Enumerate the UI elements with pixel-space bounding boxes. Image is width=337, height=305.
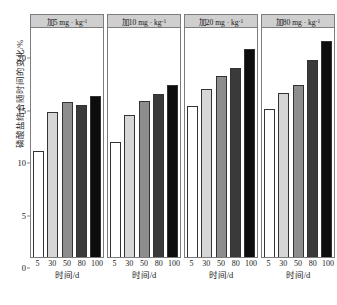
bar [201,89,212,257]
bar [90,96,101,257]
x-axis-tick-label: 80 [307,258,318,269]
x-axis-tick-label: 80 [76,258,87,269]
x-axis-tick-label: 100 [91,258,102,269]
bar [76,105,87,257]
x-axis-tick-label: 30 [201,258,212,269]
bar [230,68,241,257]
panel-row: 加5 mg · kg-1加10 mg · kg-1加20 mg · kg-1加8… [30,14,335,258]
bar [124,115,135,257]
panel-plot-area [184,27,258,258]
y-axis-tick-label: 5 [22,211,26,220]
figure-caption [0,296,337,305]
x-axis-tick-label: 100 [322,258,333,269]
bar [293,85,304,257]
x-axis-row: 5305080100时间/d5305080100时间/d5305080100时间… [30,258,335,288]
x-axis-tick-label: 50 [293,258,304,269]
chart-panel: 加5 mg · kg-1 [30,14,104,258]
x-axis-tick-label: 80 [230,258,241,269]
bar [244,49,255,257]
y-axis: 05101520 [0,24,30,258]
panel-plot-area [107,27,181,258]
y-axis-tick-label: 0 [22,264,26,273]
x-axis-tick-label: 30 [124,258,135,269]
chart-panel: 加80 mg · kg-1 [261,14,335,258]
bar [33,151,44,257]
bar [153,94,164,257]
chart-figure: 磷酸盐结合随时间的变化/% 05101520 加5 mg · kg-1加10 m… [0,0,337,305]
x-axis: 5305080100时间/d [107,258,181,288]
x-axis: 5305080100时间/d [30,258,104,288]
bar-group [110,28,178,257]
panel-header: 加10 mg · kg-1 [107,14,181,27]
bar [216,76,227,257]
bar [167,85,178,257]
x-axis-tick-label: 50 [62,258,73,269]
x-axis-tick-label: 30 [278,258,289,269]
panel-header: 加5 mg · kg-1 [30,14,104,27]
panel-plot-area [261,27,335,258]
bar-group [33,28,101,257]
chart-panel: 加20 mg · kg-1 [184,14,258,258]
x-axis-title: 时间/d [30,269,104,281]
x-axis-title: 时间/d [184,269,258,281]
bar [139,101,150,257]
bar [278,93,289,257]
x-axis-tick-label: 5 [32,258,43,269]
x-axis-tick-label: 80 [153,258,164,269]
x-axis-ticks: 5305080100 [107,258,181,269]
bar [62,102,73,257]
bar-group [187,28,255,257]
x-axis-title: 时间/d [107,269,181,281]
y-axis-tick-label: 20 [18,54,27,63]
x-axis-tick-label: 30 [47,258,58,269]
x-axis-tick-label: 50 [216,258,227,269]
y-axis-tick-label: 10 [18,159,27,168]
bar-group [264,28,332,257]
x-axis-tick-label: 5 [109,258,120,269]
y-axis-tick-label: 15 [18,106,27,115]
bar [187,106,198,257]
panel-header-label: 加80 mg · kg [276,16,316,27]
panel-header-label: 加20 mg · kg [199,16,239,27]
x-axis-tick-label: 100 [245,258,256,269]
x-axis-ticks: 5305080100 [30,258,104,269]
x-axis-tick-label: 100 [168,258,179,269]
bar [47,112,58,257]
panel-header: 加20 mg · kg-1 [184,14,258,27]
x-axis-ticks: 5305080100 [261,258,335,269]
x-axis-title: 时间/d [261,269,335,281]
x-axis-ticks: 5305080100 [184,258,258,269]
x-axis-tick-label: 5 [186,258,197,269]
x-axis: 5305080100时间/d [261,258,335,288]
panel-header: 加80 mg · kg-1 [261,14,335,27]
bar [110,142,121,258]
x-axis-tick-label: 50 [139,258,150,269]
panel-header-label: 加5 mg · kg [47,16,83,27]
chart-panel: 加10 mg · kg-1 [107,14,181,258]
panel-plot-area [30,27,104,258]
panel-header-label: 加10 mg · kg [122,16,162,27]
bar [307,60,318,257]
bar [321,41,332,257]
bar [264,109,275,257]
x-axis-tick-label: 5 [263,258,274,269]
x-axis: 5305080100时间/d [184,258,258,288]
